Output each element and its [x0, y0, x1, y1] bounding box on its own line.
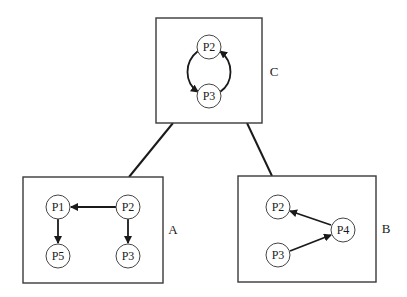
- node-b-p4[interactable]: P4: [331, 218, 355, 242]
- group-a-box: [23, 177, 163, 283]
- node-a-p1[interactable]: P1: [46, 195, 70, 219]
- group-b: P2 P3 P4 B: [238, 176, 391, 282]
- node-label: P4: [337, 223, 350, 237]
- node-c-p2[interactable]: P2: [197, 35, 221, 59]
- connector-c-to-a: [129, 123, 173, 177]
- group-a: P1 P2 P5 P3 A: [23, 177, 178, 283]
- node-label: P2: [122, 200, 135, 214]
- node-b-p3[interactable]: P3: [266, 243, 290, 267]
- node-a-p5[interactable]: P5: [46, 244, 70, 268]
- group-b-label: B: [382, 221, 391, 236]
- connector-c-to-b: [247, 123, 272, 176]
- node-label: P1: [52, 200, 65, 214]
- node-label: P2: [272, 200, 285, 214]
- node-label: P5: [52, 249, 65, 263]
- node-label: P3: [272, 248, 285, 262]
- group-a-label: A: [168, 222, 178, 237]
- group-c: P2 P3 C: [156, 18, 278, 123]
- node-b-p2[interactable]: P2: [266, 195, 290, 219]
- node-label: P3: [203, 89, 216, 103]
- group-c-label: C: [270, 64, 279, 79]
- node-label: P2: [203, 40, 216, 54]
- diagram-canvas: P2 P3 C P1 P2 P5 P3 A: [0, 0, 407, 297]
- node-label: P3: [122, 249, 135, 263]
- node-c-p3[interactable]: P3: [197, 84, 221, 108]
- node-a-p2[interactable]: P2: [116, 195, 140, 219]
- node-a-p3[interactable]: P3: [116, 244, 140, 268]
